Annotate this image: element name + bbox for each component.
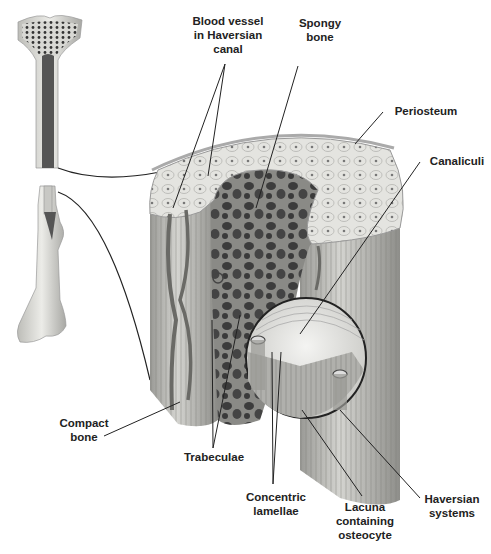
label-concentric-lamellae: Concentric lamellae [244,490,308,518]
magnified-haversian-view [246,298,366,418]
bone-section-thumbnail [18,15,82,168]
label-periosteum: Periosteum [386,104,466,118]
label-blood-vessel: Blood vessel in Haversian canal [186,14,270,56]
label-lacuna-osteocyte: Lacuna containing osteocyte [332,500,398,542]
bone-structure-diagram: Blood vessel in Haversian canal Spongy b… [0,0,491,554]
label-compact-bone: Compact bone [56,416,112,444]
label-haversian-systems: Haversian systems [420,492,484,520]
label-trabeculae: Trabeculae [182,450,246,464]
label-canaliculi: Canaliculi [422,154,491,168]
bone-exterior-thumbnail [17,186,66,342]
diagram-illustration [0,0,491,554]
zoom-leader-bottom [58,192,150,380]
zoom-leader-top [58,168,160,177]
label-spongy-bone: Spongy bone [290,16,350,44]
